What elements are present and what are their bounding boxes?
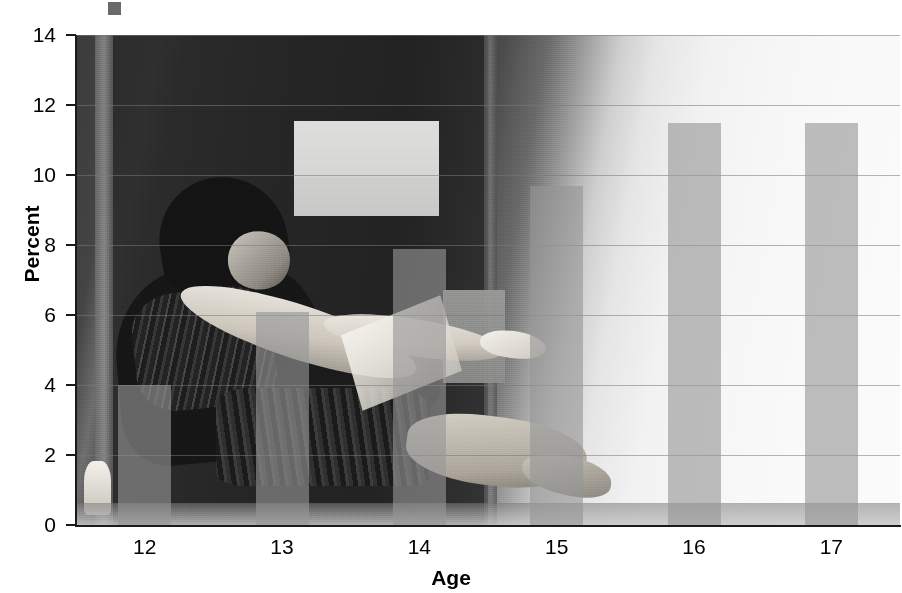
y-tick-label-0: 0	[14, 514, 56, 535]
plot-area	[76, 35, 900, 525]
y-tick-mark-2	[66, 454, 76, 456]
y-tick-label-14: 14	[14, 24, 56, 45]
y-tick-label-10: 10	[14, 164, 56, 185]
bar-age-16	[668, 123, 721, 526]
cropped-marker-square-icon	[108, 2, 121, 15]
x-tick-label-15: 15	[517, 536, 597, 557]
x-tick-label-14: 14	[379, 536, 459, 557]
gridline-4	[76, 385, 900, 386]
gridline-10	[76, 175, 900, 176]
gridline-12	[76, 105, 900, 106]
gridline-8	[76, 245, 900, 246]
bar-age-15	[530, 186, 583, 526]
gridline-14	[76, 35, 900, 36]
gridline-2	[76, 455, 900, 456]
y-tick-label-12: 12	[14, 94, 56, 115]
bar-age-12	[118, 385, 171, 525]
y-tick-label-4: 4	[14, 374, 56, 395]
chart-figure: 14121086420 121314151617 Percent Age	[0, 0, 902, 593]
x-tick-label-13: 13	[242, 536, 322, 557]
x-tick-label-17: 17	[791, 536, 871, 557]
y-tick-mark-8	[66, 244, 76, 246]
x-axis-title: Age	[0, 566, 902, 590]
bar-age-17	[805, 123, 858, 526]
y-tick-label-2: 2	[14, 444, 56, 465]
y-tick-mark-0	[66, 524, 76, 526]
x-tick-label-12: 12	[105, 536, 185, 557]
y-axis-title: Percent	[20, 184, 44, 304]
x-tick-label-16: 16	[654, 536, 734, 557]
y-tick-mark-6	[66, 314, 76, 316]
bar-age-13	[256, 312, 309, 526]
bar-age-14	[393, 249, 446, 526]
y-tick-mark-12	[66, 104, 76, 106]
y-tick-label-6: 6	[14, 304, 56, 325]
photo-grain-texture	[76, 35, 900, 525]
y-tick-mark-14	[66, 34, 76, 36]
y-tick-mark-10	[66, 174, 76, 176]
gridline-6	[76, 315, 900, 316]
y-tick-mark-4	[66, 384, 76, 386]
x-axis-line	[76, 525, 901, 527]
